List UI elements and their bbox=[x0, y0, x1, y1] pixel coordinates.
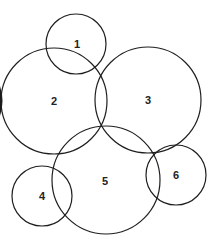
circle-2-label: 2 bbox=[51, 95, 57, 107]
circle-diagram: 1 2 3 4 5 6 bbox=[0, 0, 218, 243]
circle-6-label: 6 bbox=[173, 169, 179, 181]
circle-5: 5 bbox=[52, 126, 160, 234]
circle-3-label: 3 bbox=[145, 94, 151, 106]
circle-5-label: 5 bbox=[102, 175, 108, 187]
circle-3: 3 bbox=[95, 47, 201, 153]
circle-4: 4 bbox=[12, 166, 72, 226]
circle-4-label: 4 bbox=[39, 190, 46, 202]
circle-1-label: 1 bbox=[74, 38, 80, 50]
circle-6: 6 bbox=[146, 145, 206, 205]
circle-1: 1 bbox=[46, 14, 106, 74]
